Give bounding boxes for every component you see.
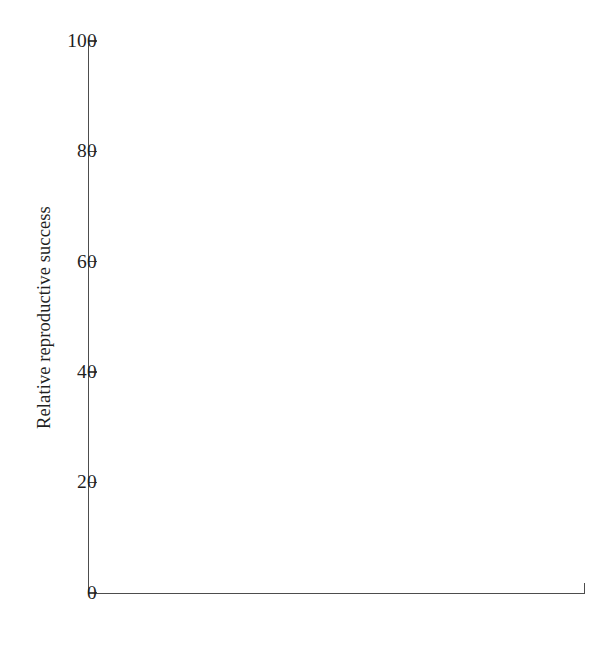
y-axis-tick-label: 100 bbox=[23, 31, 97, 51]
y-axis-tick-label: 40 bbox=[23, 362, 97, 382]
y-axis-title: Relative reproductive success bbox=[34, 41, 55, 594]
y-axis-line bbox=[88, 41, 89, 594]
y-axis-tick-label: 0 bbox=[23, 583, 97, 603]
bar-chart: Relative reproductive success 0204060801… bbox=[0, 0, 612, 647]
x-axis-right-cap bbox=[584, 583, 585, 593]
y-axis-tick-label: 60 bbox=[23, 252, 97, 272]
y-axis-tick-label: 20 bbox=[23, 472, 97, 492]
y-axis-tick-label: 80 bbox=[23, 141, 97, 161]
x-axis-line bbox=[88, 593, 585, 594]
